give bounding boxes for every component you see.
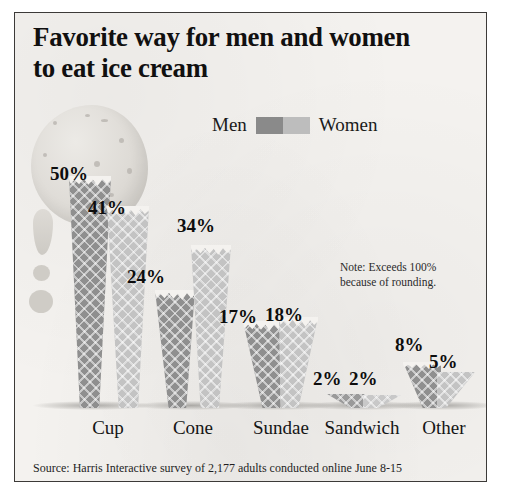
bar-cup-women	[107, 206, 149, 408]
bar-value-cup-women: 41%	[88, 197, 126, 219]
category-label-other: Other	[389, 417, 487, 439]
bar-value-sandwich-women: 2%	[349, 368, 378, 390]
chart-container: Favorite way for men and women to eat ic…	[14, 12, 487, 482]
bar-other-women	[437, 372, 475, 408]
ice-cream-drip-icon	[33, 209, 53, 255]
bar-value-other-men: 8%	[395, 334, 424, 356]
chart-source: Source: Harris Interactive survey of 2,1…	[33, 461, 402, 476]
ice-cream-droplet-icon	[33, 265, 50, 281]
bar-fill	[279, 317, 318, 408]
bar-value-cone-men: 24%	[127, 266, 165, 288]
bar-value-sundae-women: 18%	[265, 304, 303, 326]
ice-cream-droplet-icon	[29, 290, 53, 313]
bar-fill	[243, 321, 282, 408]
bar-value-other-women: 5%	[429, 351, 458, 373]
plot-area: 50% 41% Cup 24% 34% Cone	[15, 13, 487, 482]
bar-fill	[437, 372, 475, 408]
bar-fill	[107, 206, 149, 408]
infographic-page: Favorite way for men and women to eat ic…	[0, 0, 527, 497]
bar-value-sandwich-men: 2%	[313, 368, 342, 390]
bar-fill	[327, 394, 365, 408]
bar-fill	[155, 290, 195, 408]
bar-sandwich-women	[363, 395, 401, 408]
bar-sandwich-men	[327, 394, 365, 408]
bar-value-sundae-men: 17%	[219, 306, 257, 328]
bar-value-cone-women: 34%	[177, 215, 215, 237]
bar-fill	[363, 395, 401, 408]
bar-sundae-men	[243, 321, 282, 408]
bar-value-cup-men: 50%	[50, 163, 88, 185]
bar-cone-men	[155, 290, 195, 408]
bar-sundae-women	[279, 317, 318, 408]
chart-note: Note: Exceeds 100% because of rounding.	[340, 260, 475, 289]
